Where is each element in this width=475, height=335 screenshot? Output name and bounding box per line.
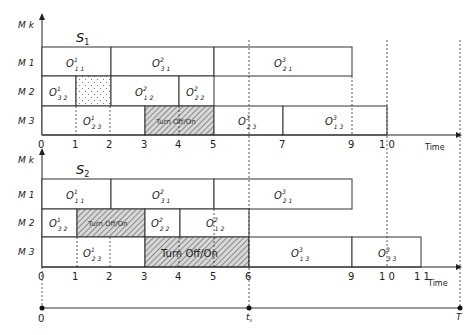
- svg-text:2: 2: [106, 271, 112, 282]
- svg-text:2: 2: [106, 139, 112, 150]
- machine-label-m2: M 2: [18, 87, 35, 97]
- y-axis-arrow-icon: [39, 13, 45, 20]
- x-axis-label: Time: [427, 279, 448, 288]
- timeline: 0 ts T: [38, 306, 463, 325]
- machine-label-m3: M 3: [18, 247, 35, 257]
- svg-text:Turn Off/On: Turn Off/On: [160, 248, 218, 259]
- svg-text:3: 3: [141, 139, 147, 150]
- op-block: [42, 209, 77, 237]
- y-axis-label: M k: [18, 20, 35, 30]
- machine-label-m1: M 1: [18, 190, 34, 200]
- machine-label-m3: M 3: [18, 116, 35, 126]
- svg-text:5: 5: [210, 139, 216, 150]
- gantt-diagram: M k S1 M 1 M 2 M 3 O11 1 O23 1: [0, 0, 475, 335]
- x-axis-arrow-icon: [456, 264, 462, 270]
- svg-text:7: 7: [279, 139, 285, 150]
- schedule-title: S1: [76, 30, 89, 47]
- timeline-end-label: T: [456, 312, 463, 322]
- op-block: [180, 209, 249, 237]
- timeline-start-label: 0: [38, 313, 44, 324]
- x-ticks: 0 1 2 3 4 5 6 9 1 0 1 1: [38, 271, 430, 282]
- y-axis-label: M k: [18, 155, 35, 165]
- machine-label-m1: M 1: [18, 58, 34, 68]
- svg-text:9: 9: [348, 271, 354, 282]
- svg-text:9: 9: [348, 139, 354, 150]
- svg-text:3: 3: [141, 271, 147, 282]
- schedule-s1: M k S1 M 1 M 2 M 3 O11 1 O23 1: [18, 13, 462, 152]
- svg-text:4: 4: [175, 139, 181, 150]
- timeline-ts-dot-icon: [247, 306, 252, 311]
- svg-text:Turn Off/On: Turn Off/On: [155, 118, 196, 126]
- svg-text:0: 0: [38, 139, 44, 150]
- svg-text:0: 0: [38, 271, 44, 282]
- svg-text:4: 4: [175, 271, 181, 282]
- x-axis-arrow-icon: [456, 132, 462, 138]
- svg-text:1 0: 1 0: [379, 271, 395, 282]
- svg-text:6: 6: [245, 271, 251, 282]
- svg-text:5: 5: [210, 271, 216, 282]
- x-ticks: 0 1 2 3 4 5 7 9 1 0: [38, 139, 395, 150]
- svg-text:1: 1: [72, 139, 78, 150]
- machine-label-m2: M 2: [18, 218, 35, 228]
- schedule-title: S2: [76, 162, 89, 179]
- timeline-end-dot-icon: [458, 306, 463, 311]
- timeline-start-dot-icon: [40, 306, 45, 311]
- svg-text:1: 1: [72, 271, 78, 282]
- idle-block: [76, 76, 111, 106]
- x-axis-label: Time: [424, 143, 445, 152]
- svg-text:Turn Off/On: Turn Off/On: [87, 220, 128, 228]
- schedule-s2: M k S2 M 1 M 2 M 3 O11 1 O23 1 O32 1 O13…: [18, 148, 462, 288]
- timeline-ts-label: ts: [246, 312, 253, 323]
